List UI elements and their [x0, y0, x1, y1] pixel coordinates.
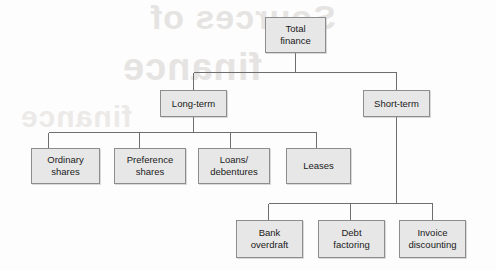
node-total-finance[interactable]: Total finance: [265, 17, 326, 53]
node-long-term[interactable]: Long-term: [160, 90, 227, 117]
node-loans-debentures-label: Loans/ debentures: [208, 154, 260, 178]
node-preference-shares[interactable]: Preference shares: [114, 148, 186, 184]
node-short-term-label: Short-term: [372, 98, 421, 110]
node-invoice-discounting[interactable]: Invoice discounting: [399, 220, 466, 258]
node-total-finance-label: Total finance: [278, 23, 313, 47]
node-bank-overdraft[interactable]: Bank overdraft: [236, 220, 303, 258]
node-bank-overdraft-label: Bank overdraft: [249, 227, 291, 251]
node-preference-shares-label: Preference shares: [125, 154, 175, 178]
node-debt-factoring-label: Debt factoring: [331, 227, 371, 251]
node-ordinary-shares-label: Ordinary shares: [45, 154, 85, 178]
node-invoice-discounting-label: Invoice discounting: [406, 227, 458, 251]
node-leases[interactable]: Leases: [286, 148, 351, 184]
node-short-term[interactable]: Short-term: [363, 90, 430, 117]
node-loans-debentures[interactable]: Loans/ debentures: [198, 148, 270, 184]
node-long-term-label: Long-term: [170, 98, 217, 110]
diagram-canvas: Sources of finance finance: [0, 0, 496, 271]
node-debt-factoring[interactable]: Debt factoring: [318, 220, 385, 258]
node-leases-label: Leases: [301, 160, 336, 172]
node-ordinary-shares[interactable]: Ordinary shares: [31, 148, 100, 184]
